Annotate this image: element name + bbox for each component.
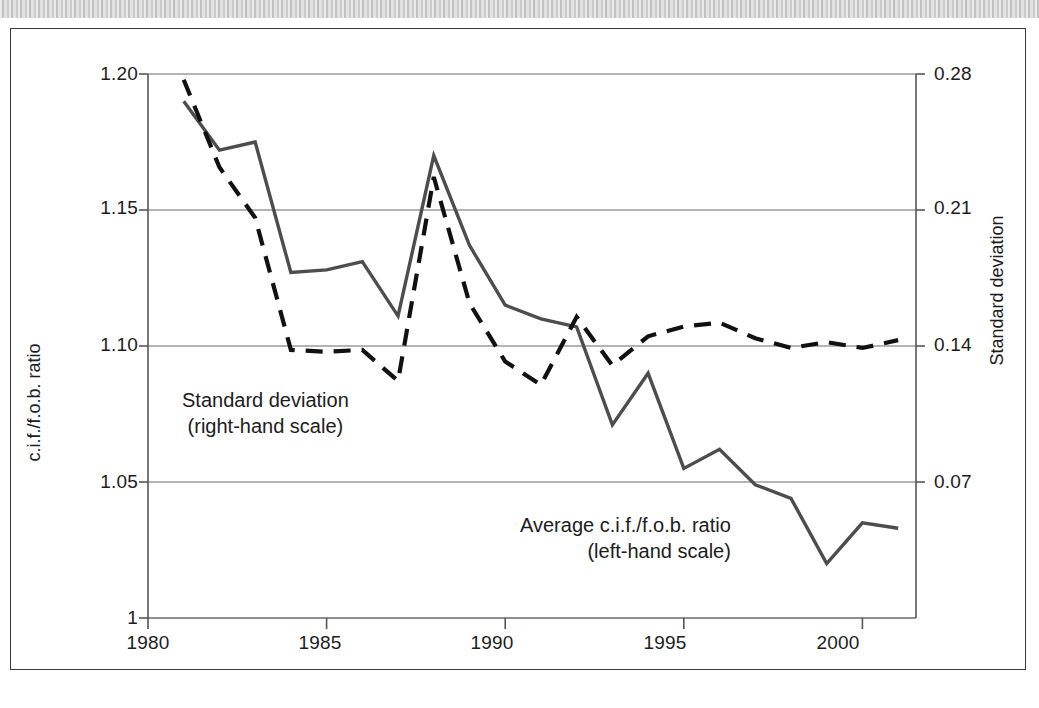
y2-tick-label-1: 0.28: [934, 63, 1004, 85]
x-tick-label-1995: 1995: [625, 632, 705, 654]
x-tick-label-1990: 1990: [452, 632, 532, 654]
annotation-standard-deviation-line1: Standard deviation: [182, 388, 349, 414]
y-tick-label-2: 1.15: [78, 197, 138, 219]
chart-canvas: [0, 0, 1039, 708]
y-tick-label-5: 1: [78, 607, 138, 629]
x-tick-label-1985: 1985: [280, 632, 360, 654]
series-line-standard-deviation: [184, 80, 898, 385]
series-line-average-ratio: [184, 101, 898, 563]
annotation-standard-deviation: Standard deviation (right-hand scale): [182, 388, 349, 439]
annotation-average-ratio-line1: Average c.i.f./f.o.b. ratio: [520, 513, 731, 539]
left-axis-title: c.i.f./f.o.b. ratio: [24, 303, 45, 503]
annotation-average-ratio-line2: (left-hand scale): [520, 539, 731, 565]
y-tick-label-1: 1.20: [78, 63, 138, 85]
y-tick-label-4: 1.05: [78, 471, 138, 493]
y-tick-label-3: 1.10: [78, 334, 138, 356]
x-tick-label-1980: 1980: [108, 632, 188, 654]
annotation-average-ratio: Average c.i.f./f.o.b. ratio (left-hand s…: [520, 513, 731, 564]
annotation-standard-deviation-line2: (right-hand scale): [182, 414, 349, 440]
x-tick-label-2000: 2000: [798, 632, 878, 654]
y2-tick-label-2: 0.21: [934, 197, 1004, 219]
y2-tick-label-4: 0.07: [934, 471, 1004, 493]
y2-tick-label-3: 0.14: [934, 334, 1004, 356]
chart-plot-area: c.i.f./f.o.b. ratio Standard deviation 1…: [0, 0, 1039, 708]
